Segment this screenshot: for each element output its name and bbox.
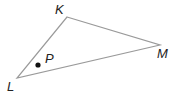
label-m: M <box>157 46 168 61</box>
point-p <box>35 62 40 67</box>
triangle-diagram: K M L P <box>0 0 187 96</box>
label-k: K <box>55 2 65 17</box>
triangle-klm <box>17 17 160 78</box>
label-p: P <box>45 51 54 66</box>
label-l: L <box>7 79 14 94</box>
